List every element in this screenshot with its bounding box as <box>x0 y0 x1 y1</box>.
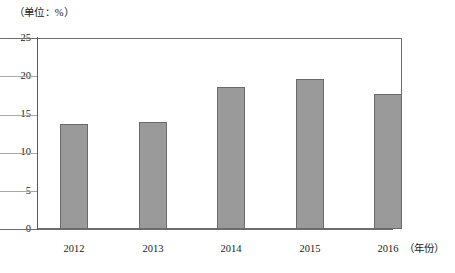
bar-2015[interactable] <box>296 79 324 229</box>
bar-2016[interactable] <box>374 94 402 229</box>
x-tick-label-2013: 2013 <box>123 243 183 254</box>
bar-2013[interactable] <box>139 122 167 229</box>
bar-2012[interactable] <box>60 124 88 229</box>
x-tick-label-2014: 2014 <box>201 243 261 254</box>
bar-chart: （单位：%） 25 20 15 10 5 0 2012 2013 2014 20… <box>0 0 455 273</box>
x-axis-line <box>0 229 393 230</box>
y-axis-labels: 25 20 15 10 5 0 <box>0 0 31 273</box>
bar-2014[interactable] <box>217 87 245 229</box>
x-axis-caption: （年份） <box>404 243 444 254</box>
x-tick-label-2012: 2012 <box>44 243 104 254</box>
y-axis-line <box>37 37 38 230</box>
x-tick-label-2015: 2015 <box>280 243 340 254</box>
plot-area <box>37 38 402 229</box>
